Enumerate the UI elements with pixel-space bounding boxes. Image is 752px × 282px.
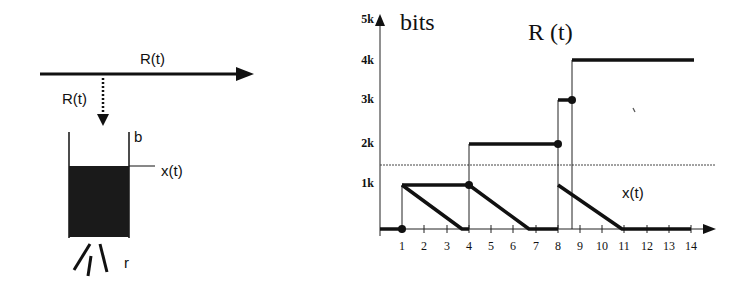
y-tick-labels: 5k 4k 3k 2k 1k — [361, 12, 374, 190]
x-tick-label: 14 — [685, 239, 697, 253]
x-tick-label: 3 — [444, 239, 450, 253]
buffer-series — [402, 185, 691, 229]
drain-rate-label: r — [124, 254, 129, 271]
leak-streak — [100, 244, 107, 272]
y-tick-label: 1k — [361, 176, 374, 190]
flow-label: R(t) — [140, 50, 165, 67]
bucket-size-label: b — [134, 128, 142, 145]
y-axis-arrow-icon — [375, 14, 385, 26]
leaky-bucket-diagram: R(t) R(t) x(t) b r — [40, 50, 254, 276]
x-tick-label: 1 — [399, 239, 405, 253]
y-tick-label: 5k — [361, 12, 374, 26]
buffer-label: x(t) — [622, 184, 644, 201]
y-tick-label: 3k — [361, 92, 374, 106]
x-tick-label: 11 — [618, 239, 630, 253]
x-tick-label: 12 — [641, 239, 653, 253]
x-tick-label: 7 — [533, 239, 539, 253]
x-axis-arrow-icon — [703, 224, 716, 234]
leak-streak — [74, 244, 90, 270]
tap-arrow-head-icon — [97, 114, 109, 126]
y-unit-label: bits — [400, 9, 435, 35]
y-tick-label: 4k — [361, 53, 374, 67]
rate-label: R (t) — [528, 19, 573, 45]
figure-canvas: R(t) R(t) x(t) b r 5k 4k 3k 2k — [0, 0, 752, 282]
x-tick-label: 2 — [421, 239, 427, 253]
rate-buffer-chart: 5k 4k 3k 2k 1k 1 2 3 4 — [361, 9, 716, 253]
stray-mark — [633, 108, 635, 112]
x-tick-label: 9 — [577, 239, 583, 253]
y-tick-label: 2k — [361, 136, 374, 150]
bucket-fill — [69, 166, 129, 237]
tap-label: R(t) — [62, 90, 87, 107]
level-label: x(t) — [161, 162, 183, 179]
leak-streak — [88, 256, 91, 276]
flow-arrow-head-icon — [236, 67, 254, 81]
x-tick-label: 8 — [555, 239, 561, 253]
x-tick-label: 10 — [596, 239, 608, 253]
x-tick-label: 13 — [663, 239, 675, 253]
x-tick-label: 4 — [466, 239, 472, 253]
x-tick-label: 6 — [510, 239, 516, 253]
x-tick-labels: 1 2 3 4 5 6 7 8 9 10 11 12 13 14 — [399, 239, 697, 253]
x-tick-label: 5 — [488, 239, 494, 253]
